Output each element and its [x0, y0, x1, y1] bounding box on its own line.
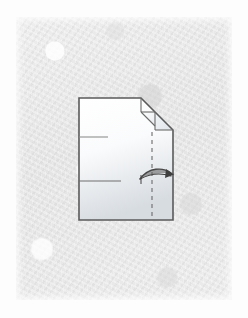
origami-diagram — [0, 0, 248, 318]
figure-page: origami fold step diagram — [0, 0, 248, 318]
